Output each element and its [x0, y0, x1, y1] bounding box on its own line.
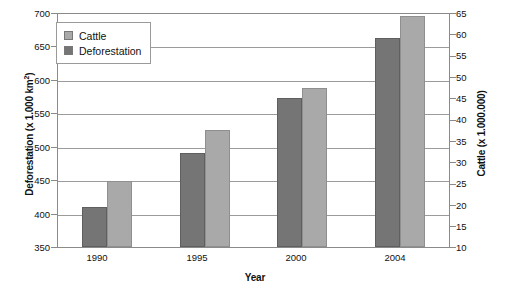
y-right-tick-65: 65	[456, 8, 506, 19]
y-right-tick-10: 10	[456, 242, 506, 253]
y-right-tickmark-35	[450, 141, 456, 142]
bar-group-2004	[375, 14, 425, 247]
y-left-tick-700: 700	[0, 8, 50, 19]
y-right-tickmark-20	[450, 205, 456, 206]
x-tick-label-1990: 1990	[67, 252, 127, 263]
y-left-tick-400: 400	[0, 209, 50, 220]
y-right-tick-25: 25	[456, 178, 506, 189]
y-right-tickmark-45	[450, 98, 456, 99]
y-right-tickmark-30	[450, 162, 456, 163]
y-left-tick-350: 350	[0, 242, 50, 253]
bar-deforestation-1990[interactable]	[82, 207, 107, 247]
y-left-tick-550: 550	[0, 108, 50, 119]
legend-label-deforestation: Deforestation	[79, 45, 141, 57]
y-right-tickmark-50	[450, 77, 456, 78]
legend: Cattle Deforestation	[56, 22, 151, 64]
x-tick-label-2004: 2004	[365, 252, 425, 263]
bar-cattle-1995[interactable]	[205, 130, 230, 247]
x-tick-label-2000: 2000	[266, 252, 326, 263]
y-right-tick-40: 40	[456, 114, 506, 125]
y-right-tickmark-15	[450, 226, 456, 227]
bar-cattle-2004[interactable]	[400, 16, 425, 247]
legend-item-deforestation[interactable]: Deforestation	[64, 43, 141, 58]
y-right-tick-60: 60	[456, 29, 506, 40]
y-right-tick-55: 55	[456, 50, 506, 61]
y-left-tick-650: 650	[0, 41, 50, 52]
legend-label-cattle: Cattle	[79, 30, 106, 42]
y-right-tickmark-25	[450, 184, 456, 185]
y-left-tick-600: 600	[0, 75, 50, 86]
y-right-tick-15: 15	[456, 221, 506, 232]
bar-deforestation-1995[interactable]	[180, 153, 205, 247]
legend-swatch-cattle-icon	[64, 31, 73, 40]
bar-cattle-2000[interactable]	[302, 88, 327, 247]
y-right-tick-50: 50	[456, 72, 506, 83]
y-right-tick-35: 35	[456, 136, 506, 147]
y-right-tickmark-65	[450, 13, 456, 14]
bar-group-1995	[180, 14, 230, 247]
y-right-tickmark-55	[450, 56, 456, 57]
bar-group-2000	[277, 14, 327, 247]
x-tick-label-1995: 1995	[167, 252, 227, 263]
y-left-tick-450: 450	[0, 175, 50, 186]
bar-deforestation-2004[interactable]	[375, 38, 400, 247]
bar-deforestation-2000[interactable]	[277, 98, 302, 247]
y-right-tick-20: 20	[456, 200, 506, 211]
bar-cattle-1990[interactable]	[107, 181, 132, 247]
y-right-tick-30: 30	[456, 157, 506, 168]
y-right-tickmark-10	[450, 247, 456, 248]
legend-swatch-deforestation-icon	[64, 46, 73, 55]
bar-chart: Deforestation (x 1.000 km2) Cattle (x 1.…	[0, 0, 510, 290]
x-axis-title: Year	[0, 272, 510, 283]
y-left-tick-500: 500	[0, 142, 50, 153]
y-right-tickmark-40	[450, 120, 456, 121]
legend-item-cattle[interactable]: Cattle	[64, 28, 141, 43]
y-right-tickmark-60	[450, 34, 456, 35]
y-right-tick-45: 45	[456, 93, 506, 104]
